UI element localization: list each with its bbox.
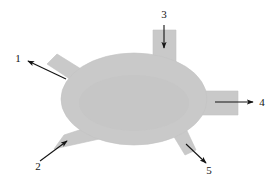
callout-4-label: 4 bbox=[259, 96, 265, 108]
callout-2-label: 2 bbox=[35, 160, 41, 172]
callout-2-leader-line bbox=[40, 141, 67, 161]
inner-lumen-shading bbox=[79, 75, 189, 131]
callout-5-label: 5 bbox=[206, 164, 212, 176]
figure-container: 1 2 3 4 5 bbox=[0, 0, 276, 183]
organ-body-group bbox=[47, 30, 238, 155]
diagram-canvas: 1 2 3 4 5 bbox=[0, 0, 276, 183]
callout-3-label: 3 bbox=[161, 8, 167, 20]
callout-1-label: 1 bbox=[15, 52, 21, 64]
